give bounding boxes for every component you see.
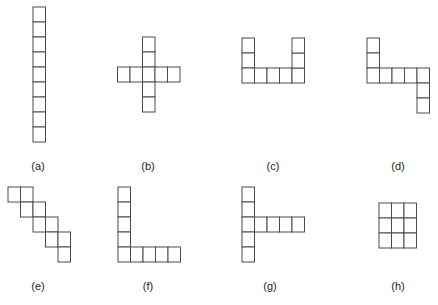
grid-square [118,247,131,262]
grid-square [255,68,268,83]
grid-square [131,247,144,262]
grid-square [33,217,46,232]
grid-square [168,247,181,262]
figure-c [242,38,305,83]
grid-square [379,203,392,218]
grid-square [155,67,168,82]
grid-square [242,217,255,232]
grid-square [33,22,46,37]
grid-square [292,217,305,232]
figure-label-a: (a) [31,160,44,172]
grid-square [280,217,293,232]
figure-label-b: (b) [141,160,154,172]
grid-square [33,97,46,112]
grid-square [405,68,418,83]
grid-square [379,218,392,233]
grid-square [33,7,46,22]
grid-square [46,217,59,232]
grid-square [21,202,34,217]
grid-square [292,38,305,53]
grid-square [143,37,156,52]
figure-a [33,7,46,142]
grid-square [392,218,405,233]
polyomino-diagram [0,0,438,305]
grid-square [33,127,46,142]
figure-label-g: (g) [263,280,276,292]
figure-label-f: (f) [143,280,153,292]
grid-square [392,68,405,83]
figure-e [8,187,71,262]
grid-square [143,52,156,67]
grid-square [58,232,71,247]
grid-square [267,217,280,232]
figure-label-h: (h) [391,280,404,292]
grid-square [242,187,255,202]
grid-square [33,52,46,67]
grid-square [255,217,268,232]
grid-square [242,68,255,83]
grid-square [118,232,131,247]
figure-label-e: (e) [31,280,44,292]
grid-square [242,202,255,217]
grid-square [404,203,417,218]
grid-square [404,218,417,233]
figure-b [118,37,181,112]
grid-square [242,38,255,53]
grid-square [143,247,156,262]
figure-d [367,38,430,113]
grid-square [33,202,46,217]
grid-square [143,67,156,82]
grid-square [292,53,305,68]
grid-square [118,217,131,232]
grid-square [267,68,280,83]
grid-square [242,53,255,68]
grid-square [21,187,34,202]
grid-square [143,97,156,112]
grid-square [379,233,392,248]
grid-square [280,68,293,83]
grid-square [33,37,46,52]
grid-square [156,247,169,262]
figure-h [379,203,417,248]
grid-square [367,68,380,83]
grid-square [118,67,131,82]
grid-square [168,67,181,82]
grid-square [417,83,430,98]
figure-g [242,187,305,262]
figure-f [118,187,181,262]
figure-label-d: (d) [391,160,404,172]
grid-square [417,98,430,113]
grid-square [242,232,255,247]
grid-square [367,53,380,68]
grid-square [46,232,59,247]
figure-label-c: (c) [267,160,280,172]
grid-square [58,247,71,262]
grid-square [33,82,46,97]
grid-square [33,112,46,127]
grid-square [392,203,405,218]
grid-square [118,187,131,202]
grid-square [380,68,393,83]
grid-square [33,67,46,82]
grid-square [367,38,380,53]
grid-square [143,82,156,97]
grid-square [130,67,143,82]
grid-square [118,202,131,217]
grid-square [292,68,305,83]
grid-square [242,247,255,262]
grid-square [417,68,430,83]
grid-square [404,233,417,248]
grid-square [8,187,21,202]
grid-square [392,233,405,248]
